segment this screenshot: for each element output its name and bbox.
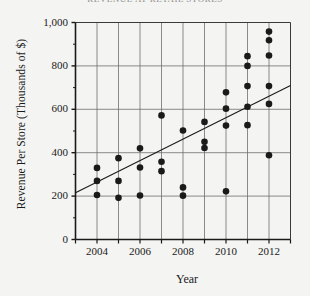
data-point: [201, 119, 208, 126]
data-point: [94, 178, 101, 185]
data-point: [94, 192, 101, 199]
data-point: [223, 105, 230, 112]
data-point: [266, 28, 273, 35]
data-point: [266, 83, 273, 90]
data-point: [266, 52, 273, 59]
data-point: [266, 101, 273, 108]
data-point: [223, 188, 230, 195]
data-point: [244, 53, 251, 60]
data-point: [158, 112, 165, 119]
data-point: [244, 122, 251, 129]
data-point: [180, 192, 187, 199]
data-point: [158, 168, 165, 175]
data-point: [94, 165, 101, 172]
data-point: [223, 89, 230, 96]
data-point: [266, 37, 273, 44]
data-point: [201, 139, 208, 146]
data-point: [115, 155, 122, 162]
data-point: [244, 63, 251, 70]
data-point: [137, 164, 144, 171]
data-point: [158, 159, 165, 166]
data-point: [244, 103, 251, 110]
data-point: [180, 127, 187, 134]
data-point: [137, 145, 144, 152]
data-point: [115, 178, 122, 185]
data-point: [137, 192, 144, 199]
data-point: [180, 184, 187, 191]
data-point: [223, 122, 230, 129]
data-point: [201, 145, 208, 152]
plot-area: [0, 0, 310, 296]
scatter-chart-figure: REVENUE AT RETAIL STORES Revenue Per Sto…: [0, 0, 310, 296]
data-point: [266, 152, 273, 159]
data-point: [244, 83, 251, 90]
data-point: [115, 195, 122, 202]
